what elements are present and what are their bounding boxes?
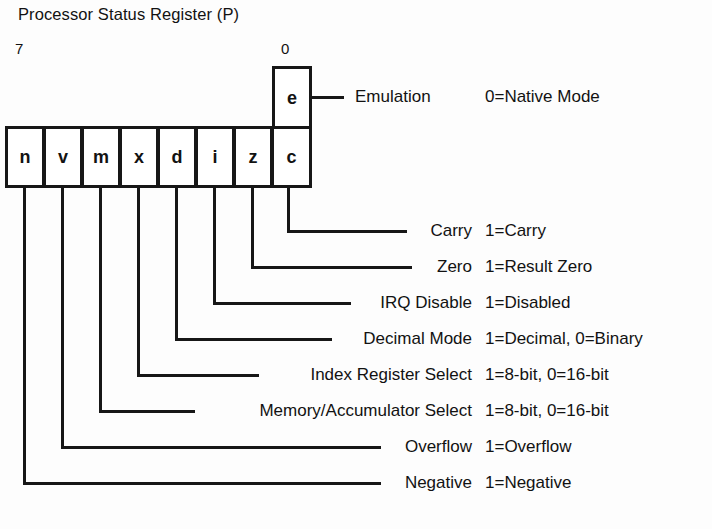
- leader-run-c: [287, 230, 407, 233]
- leader-drop-i: [213, 188, 216, 305]
- leader-drop-v: [61, 188, 64, 449]
- flag-name-memory: Memory/Accumulator Select: [259, 401, 472, 421]
- bit-box-d-label: d: [172, 148, 183, 166]
- leader-line-emulation: [312, 96, 344, 99]
- flag-name-decimal: Decimal Mode: [363, 329, 472, 349]
- bit-index-high: 7: [15, 40, 23, 57]
- emulation-name: Emulation: [355, 87, 431, 107]
- leader-drop-d: [175, 188, 178, 341]
- bit-box-i-label: i: [212, 148, 217, 166]
- leader-drop-n: [23, 188, 26, 485]
- flag-desc-carry: 1=Carry: [485, 221, 546, 241]
- leader-run-z: [251, 266, 412, 269]
- bit-box-x-label: x: [134, 148, 144, 166]
- flag-desc-index: 1=8-bit, 0=16-bit: [485, 365, 609, 385]
- flag-desc-memory: 1=8-bit, 0=16-bit: [485, 401, 609, 421]
- bit-box-c[interactable]: c: [271, 126, 312, 188]
- bit-box-i[interactable]: i: [195, 126, 235, 188]
- leader-drop-z: [251, 188, 254, 269]
- flag-desc-decimal: 1=Decimal, 0=Binary: [485, 329, 643, 349]
- page-title: Processor Status Register (P): [18, 5, 239, 24]
- bit-box-v[interactable]: v: [43, 126, 83, 188]
- bit-box-d[interactable]: d: [157, 126, 197, 188]
- leader-run-x: [137, 374, 259, 377]
- bit-box-n-label: n: [20, 148, 31, 166]
- bit-box-x[interactable]: x: [119, 126, 159, 188]
- flag-name-carry: Carry: [430, 221, 472, 241]
- register-box-row: e n v m x d i z c: [0, 0, 712, 529]
- flag-name-zero: Zero: [437, 257, 472, 277]
- leader-run-m: [99, 410, 195, 413]
- flag-name-index: Index Register Select: [310, 365, 472, 385]
- processor-status-register-diagram: Processor Status Register (P) 7 0 e n v …: [0, 0, 712, 529]
- bit-box-z[interactable]: z: [233, 126, 273, 188]
- leader-drop-x: [137, 188, 140, 377]
- bit-box-c-label: c: [286, 148, 296, 166]
- flag-desc-overflow: 1=Overflow: [485, 437, 571, 457]
- flag-desc-zero: 1=Result Zero: [485, 257, 592, 277]
- bit-index-low: 0: [281, 40, 289, 57]
- flag-desc-irq: 1=Disabled: [485, 293, 571, 313]
- bit-box-m-label: m: [93, 148, 109, 166]
- leader-run-i: [213, 302, 351, 305]
- bit-box-e[interactable]: e: [272, 66, 312, 129]
- bit-box-z-label: z: [249, 148, 258, 166]
- flag-name-irq: IRQ Disable: [380, 293, 472, 313]
- emulation-description: 0=Native Mode: [485, 87, 600, 107]
- leader-drop-m: [99, 188, 102, 413]
- leader-run-n: [23, 482, 381, 485]
- flag-name-overflow: Overflow: [405, 437, 472, 457]
- bit-box-e-label: e: [287, 89, 297, 107]
- leader-drop-c: [287, 188, 290, 233]
- bit-box-m[interactable]: m: [81, 126, 121, 188]
- leader-run-d: [175, 338, 332, 341]
- bit-box-n[interactable]: n: [5, 126, 45, 188]
- flag-name-negative: Negative: [405, 473, 472, 493]
- bit-box-v-label: v: [58, 148, 68, 166]
- leader-run-v: [61, 446, 381, 449]
- flag-desc-negative: 1=Negative: [485, 473, 571, 493]
